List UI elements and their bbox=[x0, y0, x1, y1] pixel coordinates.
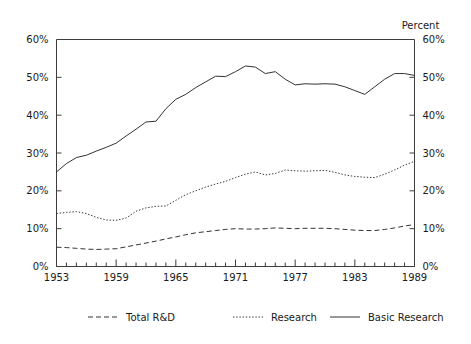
y-ticklabel-left-60: 60% bbox=[26, 34, 48, 45]
y-ticklabel-right-0: 0% bbox=[423, 261, 439, 272]
chart-legend: Total R&DResearchBasic Research bbox=[88, 312, 444, 323]
y-axis-title-group: Percent bbox=[402, 20, 440, 31]
y-ticklabel-right-60: 60% bbox=[423, 34, 445, 45]
y-ticklabel-left-0: 0% bbox=[33, 261, 49, 272]
plot-border bbox=[57, 40, 415, 267]
y-ticklabel-left-10: 10% bbox=[26, 223, 48, 234]
y-ticklabel-left-30: 30% bbox=[26, 148, 48, 159]
y-axis-title: Percent bbox=[402, 20, 440, 31]
y-ticklabel-right-10: 10% bbox=[423, 223, 445, 234]
series-line-total-r-d bbox=[57, 225, 415, 250]
line-chart: Percent 0%10%20%30%40%50%60% 0%10%20%30%… bbox=[0, 0, 471, 344]
y-ticklabel-right-30: 30% bbox=[423, 148, 445, 159]
y-ticklabel-right-40: 40% bbox=[423, 110, 445, 121]
y-ticklabel-left-20: 20% bbox=[26, 185, 48, 196]
y-ticklabel-left-50: 50% bbox=[26, 72, 48, 83]
data-series-group bbox=[57, 66, 415, 249]
x-ticklabel-1971: 1971 bbox=[223, 272, 248, 283]
plot-frame bbox=[57, 40, 415, 267]
x-ticklabel-1959: 1959 bbox=[103, 272, 128, 283]
x-ticklabel-1953: 1953 bbox=[44, 272, 69, 283]
legend-label-total-r-d: Total R&D bbox=[125, 312, 175, 323]
legend-label-basic-research: Basic Research bbox=[368, 312, 444, 323]
x-axis: 1953195919651971197719831989 bbox=[44, 260, 427, 283]
x-ticklabel-1965: 1965 bbox=[163, 272, 188, 283]
y-ticklabel-right-50: 50% bbox=[423, 72, 445, 83]
x-ticklabel-1983: 1983 bbox=[342, 272, 367, 283]
y-ticklabel-right-20: 20% bbox=[423, 185, 445, 196]
legend-label-research: Research bbox=[271, 312, 317, 323]
x-ticklabel-1977: 1977 bbox=[282, 272, 307, 283]
series-line-basic-research bbox=[57, 66, 415, 172]
chart-container: Percent 0%10%20%30%40%50%60% 0%10%20%30%… bbox=[0, 0, 471, 344]
y-ticklabel-left-40: 40% bbox=[26, 110, 48, 121]
x-ticklabel-1989: 1989 bbox=[402, 272, 427, 283]
series-line-research bbox=[57, 161, 415, 220]
